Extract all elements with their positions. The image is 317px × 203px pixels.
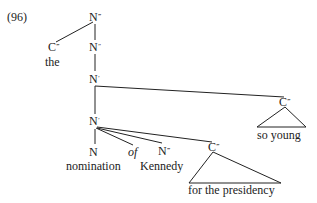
- node-head-n: N: [89, 146, 98, 158]
- node-n1-upper: N′: [89, 73, 99, 85]
- word-the: the: [45, 56, 60, 68]
- phrase-so-young: so young: [257, 129, 301, 141]
- phrase-for-the-presidency: for the presidency: [188, 184, 275, 196]
- node-n2: N″: [89, 41, 101, 53]
- node-spec-c3: C‴: [48, 41, 59, 53]
- node-complement-n3: N‴: [158, 145, 170, 157]
- word-nomination: nomination: [66, 160, 121, 172]
- node-root-n3: N‴: [89, 11, 101, 23]
- node-right-c3: C‴: [279, 96, 290, 108]
- node-n1-lower: N′: [89, 115, 99, 127]
- node-pp-c3: C‴: [208, 141, 219, 153]
- word-of: of: [128, 146, 137, 158]
- word-kennedy: Kennedy: [140, 160, 183, 172]
